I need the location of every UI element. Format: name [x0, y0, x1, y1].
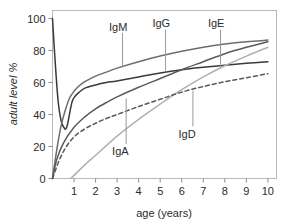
series-label-iga: IgA [112, 145, 129, 157]
chart-canvas: 020406080100 12345678910 IgMIgGIgEIgAIgD… [0, 0, 291, 223]
curve-iga [53, 42, 268, 179]
x-tick-label: 1 [71, 185, 77, 197]
x-tick-label: 8 [222, 185, 228, 197]
plot-frame [53, 11, 277, 179]
x-axis-title: age (years) [136, 207, 192, 219]
y-tick-label: 40 [33, 109, 45, 121]
x-tick-label: 7 [200, 185, 206, 197]
curve-igd [53, 74, 268, 179]
immunoglobulin-levels-chart: 020406080100 12345678910 IgMIgGIgEIgAIgD… [0, 0, 291, 223]
y-axis-ticks [49, 19, 53, 179]
y-tick-label: 0 [39, 173, 45, 185]
x-tick-label: 10 [262, 185, 274, 197]
curve-ige [71, 47, 268, 178]
y-tick-label: 100 [27, 13, 45, 25]
x-tick-label: 5 [157, 185, 163, 197]
series-label-ige: IgE [208, 17, 225, 29]
x-tick-label: 3 [114, 185, 120, 197]
y-tick-label: 80 [33, 45, 45, 57]
x-axis-tick-labels: 12345678910 [71, 185, 274, 197]
series-label-igd: IgD [179, 128, 196, 140]
x-tick-label: 2 [93, 185, 99, 197]
y-axis-tick-labels: 020406080100 [27, 13, 45, 185]
y-tick-label: 60 [33, 77, 45, 89]
x-tick-label: 4 [136, 185, 142, 197]
y-tick-label: 20 [33, 141, 45, 153]
x-tick-label: 9 [243, 185, 249, 197]
curve-igg [53, 19, 268, 130]
series-label-igg: IgG [152, 17, 170, 29]
series-curves [53, 19, 268, 179]
series-annotations: IgMIgGIgEIgAIgD [109, 17, 224, 157]
series-label-igm: IgM [109, 21, 127, 33]
y-axis-title: adult level % [7, 63, 19, 126]
x-tick-label: 6 [179, 185, 185, 197]
x-axis-ticks [74, 179, 268, 183]
